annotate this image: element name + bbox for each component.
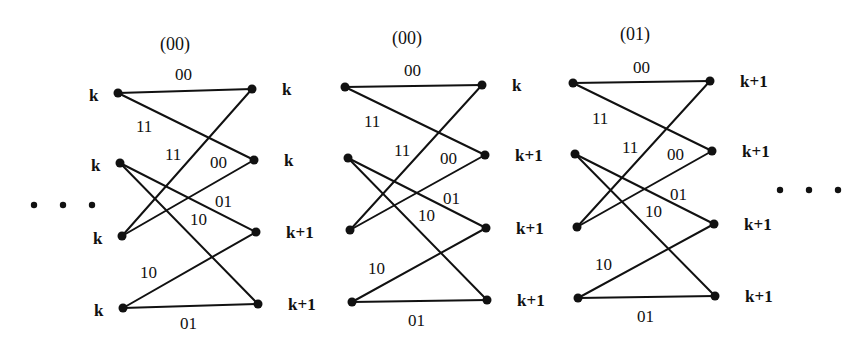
branch-label: 11 (165, 145, 181, 164)
state-node (478, 81, 487, 90)
trellis-stage-2: (00)0011110001101001kk+1k+1k+1 (341, 28, 545, 330)
branch-edge (348, 158, 487, 300)
state-label: k+1 (744, 215, 772, 234)
ellipsis-dot (777, 187, 783, 193)
branch-label: 10 (595, 255, 612, 274)
state-node (710, 220, 719, 229)
branch-label: 10 (140, 263, 157, 282)
state-label: k (284, 151, 294, 170)
ellipsis-dot (60, 202, 66, 208)
state-node (348, 298, 357, 307)
ellipsis-dot (31, 202, 37, 208)
branch-edge (345, 85, 482, 87)
branch-edge (122, 89, 252, 236)
branch-edge (348, 158, 486, 228)
branch-edge (577, 81, 710, 227)
branch-label: 01 (637, 307, 654, 326)
state-node (708, 147, 717, 156)
state-label: k+1 (745, 287, 773, 306)
state-node (711, 292, 720, 301)
branch-label: 01 (180, 314, 197, 333)
branch-label: 00 (440, 149, 457, 168)
stage-header: (01) (620, 24, 650, 45)
state-label: k+1 (288, 295, 316, 314)
trellis-diagram: (00)0011110001101001kkkkkkk+1k+1(00)0011… (0, 0, 866, 344)
state-node (571, 150, 580, 159)
trellis-stage-3: (01)0011110001101001k+1k+1k+1k+1 (569, 24, 773, 326)
state-label: k+1 (742, 142, 770, 161)
branch-label: 01 (670, 185, 687, 204)
state-node (346, 226, 355, 235)
branch-label: 10 (190, 210, 207, 229)
branch-label: 01 (215, 192, 232, 211)
branch-label: 11 (592, 109, 608, 128)
branch-label: 00 (667, 145, 684, 164)
branch-label: 10 (368, 259, 385, 278)
ellipsis-dot (806, 187, 812, 193)
branch-edge (118, 89, 252, 93)
branch-edge (120, 163, 258, 304)
branch-label: 11 (136, 117, 152, 136)
branch-label: 10 (645, 202, 662, 221)
ellipsis-left (31, 202, 95, 208)
state-node (706, 77, 715, 86)
branch-label: 11 (364, 112, 380, 131)
branch-edge (350, 85, 482, 230)
state-node (250, 156, 259, 165)
state-node (252, 228, 261, 237)
state-node (574, 294, 583, 303)
state-label: k (512, 76, 522, 95)
stage-header: (00) (160, 34, 190, 55)
state-label: k (282, 80, 292, 99)
branch-edge (352, 300, 487, 302)
state-node (344, 154, 353, 163)
state-node (248, 85, 257, 94)
state-node (119, 304, 128, 313)
state-label: k+1 (286, 223, 314, 242)
state-node (118, 232, 127, 241)
state-label: k+1 (740, 72, 768, 91)
state-node (481, 151, 490, 160)
branch-label: 01 (443, 189, 460, 208)
state-label: k (93, 229, 103, 248)
state-node (573, 223, 582, 232)
state-node (254, 300, 263, 309)
state-node (341, 83, 350, 92)
stage-header: (00) (392, 28, 422, 49)
branch-edge (578, 296, 715, 298)
state-node (569, 79, 578, 88)
trellis-stage-1: (00)0011110001101001kkkkkkk+1k+1 (89, 34, 316, 333)
branch-label: 01 (408, 311, 425, 330)
state-node (482, 224, 491, 233)
state-node (116, 159, 125, 168)
branch-label: 11 (622, 138, 638, 157)
state-label: k+1 (515, 146, 543, 165)
branch-edge (575, 154, 715, 296)
ellipsis-dot (835, 187, 841, 193)
state-label: k (91, 156, 101, 175)
state-label: k+1 (516, 219, 544, 238)
state-node (483, 296, 492, 305)
branch-label: 00 (210, 153, 227, 172)
state-label: k (94, 301, 104, 320)
state-label: k (89, 86, 99, 105)
branch-label: 11 (394, 141, 410, 160)
branch-edge (123, 304, 258, 308)
trellis-stages: (00)0011110001101001kkkkkkk+1k+1(00)0011… (89, 24, 773, 333)
branch-edge (573, 81, 710, 83)
branch-label: 00 (175, 65, 192, 84)
ellipsis-dot (89, 202, 95, 208)
state-node (114, 89, 123, 98)
ellipsis-right (777, 187, 841, 193)
branch-label: 00 (633, 58, 650, 77)
branch-label: 00 (404, 61, 421, 80)
branch-edge (120, 163, 256, 232)
branch-label: 10 (418, 206, 435, 225)
state-label: k+1 (517, 291, 545, 310)
